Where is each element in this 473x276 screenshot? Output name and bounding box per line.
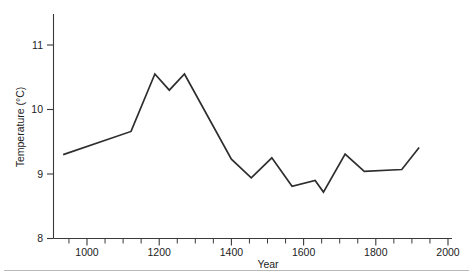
footer-divider bbox=[4, 270, 469, 271]
x-tick-label: 1000 bbox=[75, 246, 99, 258]
y-tick-label: 10 bbox=[31, 103, 43, 115]
y-tick-label: 9 bbox=[37, 168, 43, 180]
y-tick-marks bbox=[47, 45, 54, 239]
y-tick-label: 8 bbox=[37, 232, 43, 244]
temperature-line-chart: 891011 100012001400160018002000 Year Tem… bbox=[0, 0, 473, 276]
chart-plot-area: 891011 100012001400160018002000 Year Tem… bbox=[0, 0, 473, 276]
x-tick-label: 2000 bbox=[436, 246, 460, 258]
x-tick-label: 1200 bbox=[148, 246, 172, 258]
x-tick-label: 1400 bbox=[220, 246, 244, 258]
y-tick-label: 11 bbox=[32, 39, 43, 51]
x-tick-labels: 100012001400160018002000 bbox=[75, 246, 460, 258]
temperature-series-line bbox=[63, 74, 419, 192]
x-axis-title: Year bbox=[257, 258, 279, 270]
x-tick-label: 1800 bbox=[364, 246, 388, 258]
y-axis-title: Temperature (°C) bbox=[14, 87, 26, 168]
x-tick-label: 1600 bbox=[292, 246, 316, 258]
y-tick-labels: 891011 bbox=[31, 39, 43, 245]
